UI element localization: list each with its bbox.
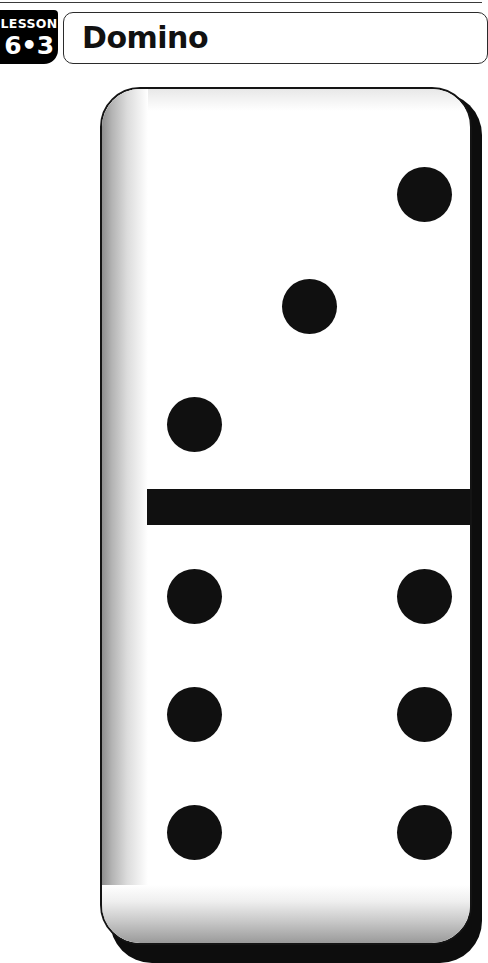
pip-left-top — [167, 569, 222, 624]
lesson-badge: LESSON 6•3 — [0, 10, 58, 64]
page-top-rule — [0, 2, 482, 3]
pip-right-middle — [397, 687, 452, 742]
pip-bottom-left — [167, 397, 222, 452]
pip-center — [282, 279, 337, 334]
pip-right-top — [397, 569, 452, 624]
lesson-header: Domino LESSON 6•3 — [0, 8, 482, 68]
pip-top-right — [397, 167, 452, 222]
domino-bevel-left — [102, 89, 148, 943]
lesson-badge-label: LESSON — [0, 10, 58, 32]
domino-tile — [100, 87, 472, 945]
domino-illustration — [0, 75, 482, 961]
lesson-badge-number: 6•3 — [0, 32, 58, 60]
page-title: Domino — [82, 17, 208, 59]
domino-divider-bar — [147, 489, 472, 525]
domino-bevel-bottom — [102, 885, 470, 943]
pip-left-middle — [167, 687, 222, 742]
domino-bevel-top — [102, 89, 470, 111]
pip-right-bottom — [397, 805, 452, 860]
pip-left-bottom — [167, 805, 222, 860]
